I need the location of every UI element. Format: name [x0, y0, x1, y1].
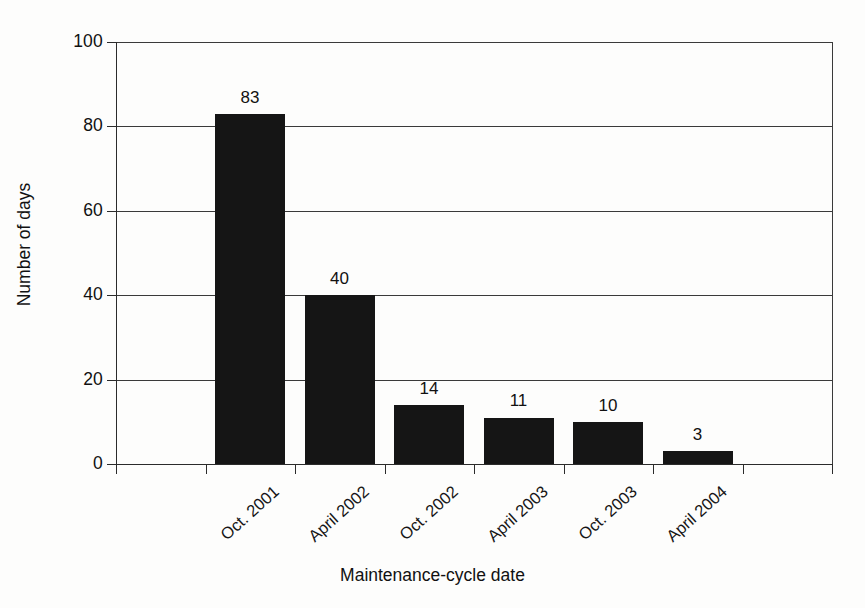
y-tick-label-40: 40 [41, 284, 103, 305]
gridline-100 [116, 42, 832, 43]
bar-value-april-2002: 40 [300, 269, 380, 289]
x-tick-2 [295, 464, 296, 474]
x-category-label-oct-2001: Oct. 2001 [196, 482, 283, 563]
y-tick-60 [107, 211, 116, 212]
x-tick-8 [832, 464, 833, 474]
x-tick-4 [474, 464, 475, 474]
bar-value-oct-2003: 10 [568, 396, 648, 416]
x-tick-0 [116, 464, 117, 474]
y-tick-20 [107, 380, 116, 381]
x-tick-7 [743, 464, 744, 474]
bar-value-oct-2002: 14 [389, 379, 469, 399]
x-tick-5 [564, 464, 565, 474]
plot-frame-right-edge [832, 42, 833, 464]
y-tick-label-60: 60 [41, 200, 103, 221]
bar-oct-2001 [215, 114, 285, 464]
bar-chart: 100 80 60 40 20 0 83 40 14 11 10 3 Oct. … [0, 0, 865, 608]
x-category-label-oct-2003: Oct. 2003 [554, 482, 641, 563]
y-tick-label-80: 80 [41, 115, 103, 136]
x-axis-title: Maintenance-cycle date [0, 565, 865, 586]
bar-value-april-2004: 3 [658, 425, 738, 445]
bar-april-2003 [484, 418, 554, 464]
bar-value-april-2003: 11 [479, 391, 559, 411]
x-category-label-april-2004: April 2004 [643, 482, 730, 563]
y-tick-label-20: 20 [41, 369, 103, 390]
y-tick-0 [107, 464, 116, 465]
bar-value-oct-2001: 83 [210, 88, 290, 108]
y-axis-line [116, 42, 117, 464]
bar-april-2002 [305, 295, 375, 464]
y-tick-label-group: 100 80 60 40 20 0 [40, 0, 103, 608]
y-tick-label-0: 0 [41, 453, 103, 474]
x-category-label-oct-2002: Oct. 2002 [375, 482, 462, 563]
y-tick-40 [107, 295, 116, 296]
x-tick-3 [385, 464, 386, 474]
y-tick-100 [107, 42, 116, 43]
x-tick-1 [206, 464, 207, 474]
x-tick-6 [653, 464, 654, 474]
bar-oct-2003 [573, 422, 643, 464]
y-axis-title: Number of days [14, 135, 35, 355]
y-tick-80 [107, 126, 116, 127]
x-category-label-april-2003: April 2003 [464, 482, 551, 563]
y-tick-label-100: 100 [41, 31, 103, 52]
bar-oct-2002 [394, 405, 464, 464]
bar-april-2004 [663, 451, 733, 464]
x-category-label-april-2002: April 2002 [285, 482, 372, 563]
